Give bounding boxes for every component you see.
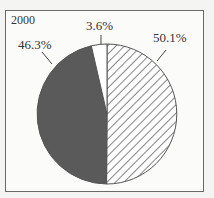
slice-50-1: [107, 44, 177, 184]
leader-46-3: [42, 52, 52, 64]
label-50-1: 50.1%: [153, 30, 187, 46]
leader-50-1: [157, 50, 166, 61]
label-3-6: 3.6%: [86, 18, 113, 34]
label-46-3: 46.3%: [18, 37, 52, 53]
